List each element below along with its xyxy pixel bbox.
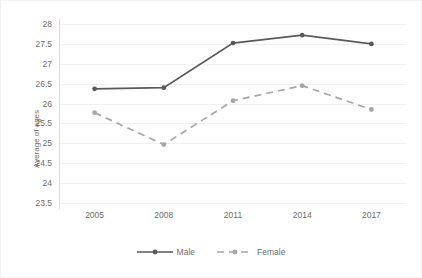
legend-label-female: Female [257,247,285,257]
legend-label-male: Male [177,247,195,257]
x-tick-label: 2005 [85,210,104,220]
series-line-female [95,86,372,145]
data-point-female [92,110,97,115]
y-tick-label: 24.5 [12,159,52,168]
data-point-male [231,41,236,46]
y-tick-label: 24 [12,179,52,188]
data-point-male [369,41,374,46]
y-tick-label: 25 [12,139,52,148]
data-point-female [161,142,166,147]
y-tick-label: 27 [12,60,52,69]
data-point-female [300,83,305,88]
legend-item-female[interactable]: Female [217,247,285,257]
legend-swatch-male-icon [137,247,173,257]
x-tick-label: 2008 [154,210,173,220]
data-point-male [300,33,305,38]
x-tick-label: 2017 [362,210,381,220]
series-layer [60,24,406,203]
data-point-male [161,85,166,90]
y-tick-label: 27.5 [12,40,52,49]
chart-legend: Male Female [1,247,421,257]
gridline [60,203,406,204]
y-tick-label: 26.5 [12,79,52,88]
y-tick-label: 28 [12,20,52,29]
line-chart: Average of ages 23.52424.52525.52626.527… [0,0,422,278]
legend-swatch-female-icon [217,247,253,257]
data-point-male [92,86,97,91]
x-tick-label: 2011 [224,210,242,220]
y-tick-label: 23.5 [12,199,52,208]
y-tick-label: 26 [12,99,52,108]
data-point-female [231,98,236,103]
x-tick-label: 2014 [293,210,312,220]
legend-item-male[interactable]: Male [137,247,195,257]
data-point-female [369,107,374,112]
y-tick-label: 25.5 [12,119,52,128]
plot-area: 23.52424.52525.52626.52727.528 200520082… [60,24,406,203]
